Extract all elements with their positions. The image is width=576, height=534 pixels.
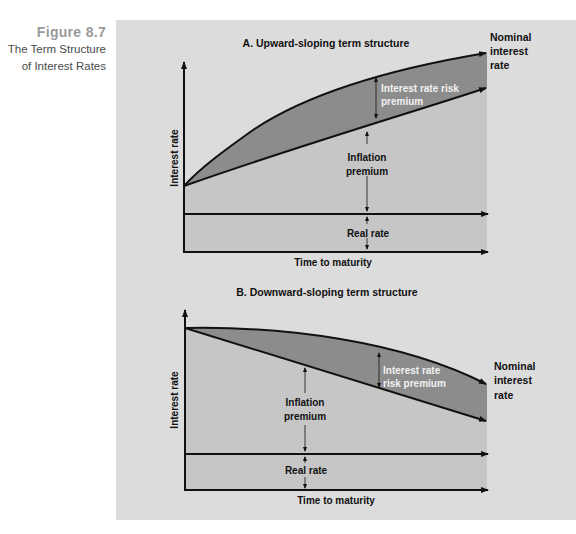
panel-b-inflation-label-1: Inflation bbox=[286, 397, 325, 408]
term-structure-diagram: A. Upward-sloping term structure Nominal… bbox=[0, 0, 576, 534]
panel-b-nominal-label-2: interest bbox=[494, 374, 532, 386]
panel-a-nominal-label-1: Nominal bbox=[490, 31, 532, 43]
panel-a-nominal-label-2: interest bbox=[490, 45, 528, 57]
panel-b-y-axis-label: Interest rate bbox=[169, 371, 180, 429]
panel-a-nominal-label-3: rate bbox=[490, 59, 509, 71]
panel-a-title: A. Upward-sloping term structure bbox=[243, 37, 410, 49]
panel-a-risk-label-2: premium bbox=[381, 96, 423, 107]
panel-a-inflation-label-1: Inflation bbox=[348, 152, 387, 163]
panel-a-inflation-label-2: premium bbox=[346, 166, 388, 177]
panel-b-risk-label-2: risk premium bbox=[383, 378, 446, 389]
panel-b-inflation-label-2: premium bbox=[284, 411, 326, 422]
panel-b-risk-label-1: Interest rate bbox=[383, 365, 441, 376]
panel-a: A. Upward-sloping term structure Nominal… bbox=[169, 31, 532, 268]
panel-a-real-label: Real rate bbox=[347, 228, 390, 239]
panel-b-nominal-label-1: Nominal bbox=[494, 360, 536, 372]
panel-b: B. Downward-sloping term structure Nomin… bbox=[169, 286, 536, 506]
panel-b-x-axis-label: Time to maturity bbox=[297, 495, 375, 506]
panel-b-title: B. Downward-sloping term structure bbox=[236, 286, 418, 298]
panel-a-x-axis-label: Time to maturity bbox=[294, 257, 372, 268]
panel-b-nominal-label-3: rate bbox=[494, 389, 513, 401]
panel-b-real-label: Real rate bbox=[285, 465, 328, 476]
panel-a-y-axis-label: Interest rate bbox=[169, 129, 180, 187]
panel-a-risk-label-1: Interest rate risk bbox=[381, 83, 459, 94]
